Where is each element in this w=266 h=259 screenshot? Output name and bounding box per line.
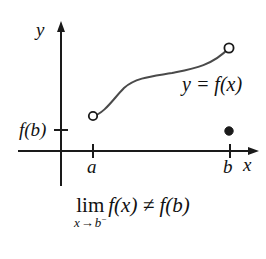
limit-diagram-figure: y x a b f(b) y = f(x) lim x→b− f(x) ≠ f(… [0, 0, 266, 259]
limit-subscript: x→b− [74, 214, 106, 231]
open-circle-right-endpoint [224, 43, 233, 52]
x-tick-label-a: a [87, 157, 97, 176]
limit-subscript-side: − [101, 214, 106, 224]
limit-operator-group: lim x→b− [76, 193, 104, 218]
filled-circle-fb-point [225, 127, 233, 135]
y-axis-label: y [36, 20, 44, 39]
x-tick-label-b: b [223, 157, 233, 176]
limit-caption: lim x→b− f(x) ≠ f(b) [0, 193, 266, 218]
y-axis-arrowhead [57, 21, 65, 32]
y-tick-label-fb: f(b) [19, 120, 46, 139]
limit-subscript-variable: x [74, 215, 80, 230]
open-circle-left-endpoint [89, 112, 97, 120]
curve-equation-label: y = f(x) [182, 74, 242, 94]
limit-subscript-arrow-icon: → [80, 215, 95, 230]
x-axis-label: x [243, 155, 251, 174]
limit-expression: f(x) ≠ f(b) [108, 193, 190, 218]
